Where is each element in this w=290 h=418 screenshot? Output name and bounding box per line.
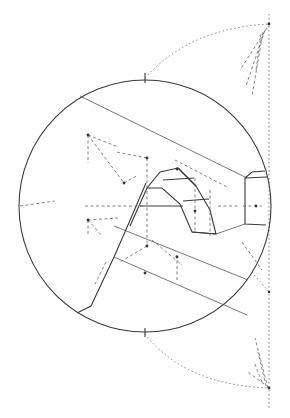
lower-chord-a bbox=[114, 257, 247, 315]
right-box bbox=[245, 171, 267, 225]
lower-hatch-marks bbox=[248, 338, 268, 388]
upper-chord bbox=[80, 96, 247, 178]
lower-projection-arc bbox=[145, 334, 269, 388]
projection-diagram bbox=[0, 0, 290, 418]
upper-projection-arc bbox=[145, 24, 269, 78]
polyhedron bbox=[130, 168, 216, 234]
lower-right-diagonal bbox=[252, 272, 269, 292]
left-edge-polyline bbox=[77, 183, 146, 313]
construction-lines bbox=[20, 135, 262, 286]
upper-hatch-marks bbox=[240, 28, 267, 96]
box-link-upper bbox=[216, 224, 245, 234]
lower-chord-b bbox=[114, 226, 248, 280]
